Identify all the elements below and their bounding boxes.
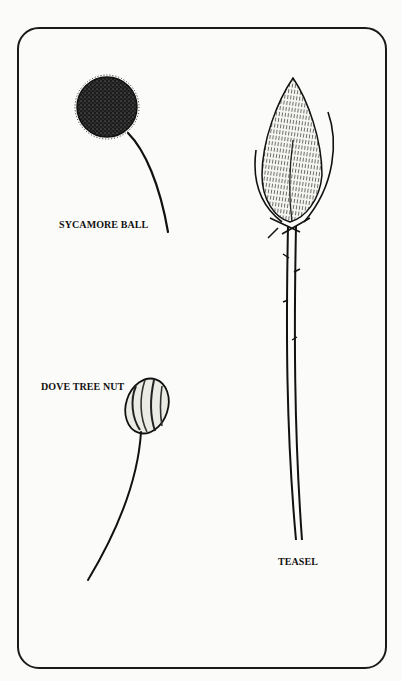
botanical-illustration — [0, 0, 402, 681]
sycamore-ball-drawing — [75, 75, 168, 232]
teasel-label: TEASEL — [278, 556, 318, 567]
dove-tree-nut-drawing — [88, 373, 176, 580]
teasel-drawing — [255, 78, 333, 540]
dove-tree-nut-label: DOVE TREE NUT — [41, 381, 124, 392]
sycamore-ball-label: SYCAMORE BALL — [59, 219, 148, 230]
